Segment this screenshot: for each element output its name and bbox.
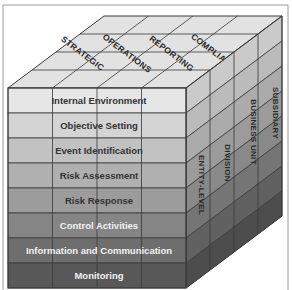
component-label-control-activities: Control Activities	[60, 220, 138, 231]
side-label-division: DIVISION	[223, 144, 232, 182]
component-label-objective-setting: Objective Setting	[60, 120, 138, 131]
front-face-components: Internal EnvironmentObjective SettingEve…	[8, 88, 186, 288]
side-label-entity-level: ENTITY-LEVEL	[197, 155, 206, 215]
side-label-subsidiary: SUBSIDIARY	[271, 87, 280, 139]
component-label-event-identification: Event Identification	[55, 145, 143, 156]
side-label-business-unit: BUSINESS UNIT	[249, 99, 258, 165]
component-label-risk-assessment: Risk Assessment	[60, 170, 139, 181]
component-label-risk-response: Risk Response	[65, 195, 133, 206]
coso-cube-diagram: STRATEGICOPERATIONSREPORTINGCOMPLIANCE E…	[0, 0, 292, 290]
component-label-information-and-communication: Information and Communication	[26, 245, 172, 256]
component-label-internal-environment: Internal Environment	[51, 95, 147, 106]
cube-canvas: STRATEGICOPERATIONSREPORTINGCOMPLIANCE E…	[0, 0, 292, 290]
component-label-monitoring: Monitoring	[74, 270, 123, 281]
